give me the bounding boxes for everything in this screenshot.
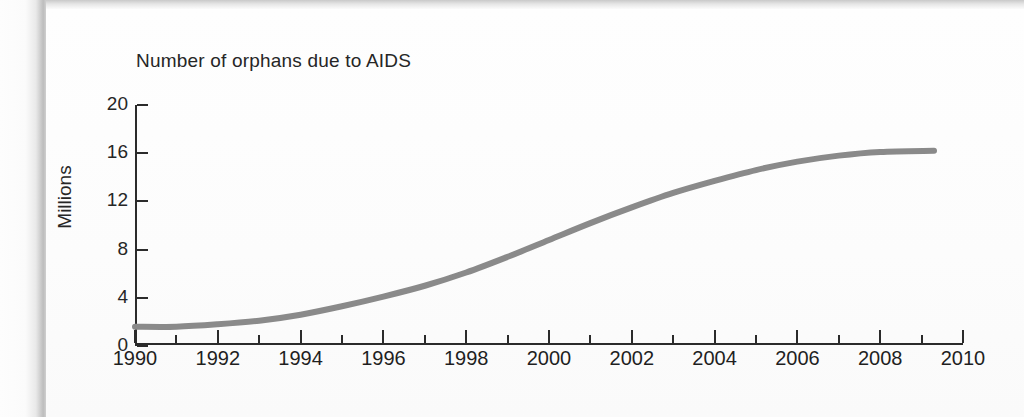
chart-page: Number of orphans due to AIDS Millions 0… (0, 0, 1024, 417)
y-tick-label-8: 8 (117, 238, 128, 260)
x-tick-label-1996: 1996 (361, 347, 406, 370)
x-tick-label-2010: 2010 (941, 347, 986, 370)
y-tick-label-20: 20 (107, 93, 128, 115)
y-tick-label-16: 16 (107, 141, 128, 163)
data-line-series (135, 105, 963, 346)
x-tick-label-1994: 1994 (278, 347, 323, 370)
x-tick-label-1990: 1990 (113, 347, 158, 370)
x-tick-label-2006: 2006 (775, 347, 820, 370)
page-edge-shadow-top (46, 0, 1024, 9)
y-axis-label: Millions (54, 127, 76, 267)
x-tick-label-2000: 2000 (527, 347, 572, 370)
x-tick-label-2008: 2008 (858, 347, 903, 370)
x-tick-label-1998: 1998 (444, 347, 489, 370)
x-tick-label-2002: 2002 (610, 347, 655, 370)
x-tick-label-1992: 1992 (196, 347, 241, 370)
x-tick-label-2004: 2004 (692, 347, 737, 370)
chart-title: Number of orphans due to AIDS (136, 50, 411, 72)
page-edge-shadow-left (0, 0, 46, 417)
y-tick-label-12: 12 (107, 189, 128, 211)
y-tick-label-4: 4 (117, 286, 128, 308)
orphans-line-path (135, 151, 934, 327)
plot-area: 048121620 199019921994199619982000200220… (135, 105, 963, 345)
